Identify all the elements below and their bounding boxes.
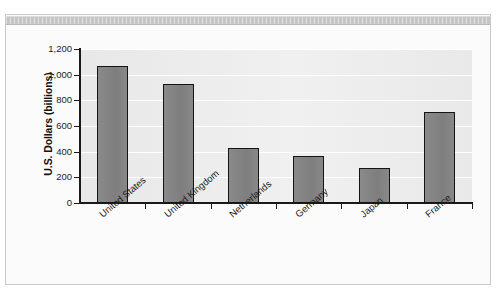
x-axis-tick [472,204,473,209]
y-axis-tick [74,49,80,50]
bar [163,84,194,203]
bar [424,112,455,203]
x-axis-tick [211,204,212,209]
y-axis-tick [74,203,80,204]
x-axis-tick [341,204,342,209]
y-axis-tick [74,75,80,76]
bar-chart-figure: U.S. Dollars (billions) 02004006008001,0… [0,0,501,299]
y-axis-tick [74,152,80,153]
y-axis-tick-label-text: 1,000 [48,69,72,80]
top-decorative-band [6,16,490,25]
x-axis-tick [276,204,277,209]
y-axis-tick-label-text: 600 [56,120,72,131]
y-axis-tick-label: 0 [22,203,72,204]
y-axis-tick-label-text: 800 [56,94,72,105]
x-axis-tick [407,204,408,209]
y-axis-tick [74,177,80,178]
y-axis-tick-label-text: 200 [56,171,72,182]
y-axis-tick-label-text: 0 [67,197,72,208]
y-axis-tick-label: 400 [22,152,72,153]
y-axis-tick-label-text: 400 [56,146,72,157]
y-axis-tick-label: 1,200 [22,49,72,50]
y-axis-tick-label: 800 [22,100,72,101]
y-axis-tick [74,126,80,127]
y-axis-tick-label: 200 [22,177,72,178]
gridline [80,49,472,50]
bar [97,66,128,203]
gridline [80,75,472,76]
x-axis-tick [145,204,146,209]
gridline [80,100,472,101]
y-axis-tick-label: 1,000 [22,75,72,76]
y-axis-tick-label: 600 [22,126,72,127]
gridline [80,152,472,153]
gridline [80,126,472,127]
y-axis-tick [74,100,80,101]
top-band-texture [6,17,490,24]
y-axis-tick-label-text: 1,200 [48,43,72,54]
